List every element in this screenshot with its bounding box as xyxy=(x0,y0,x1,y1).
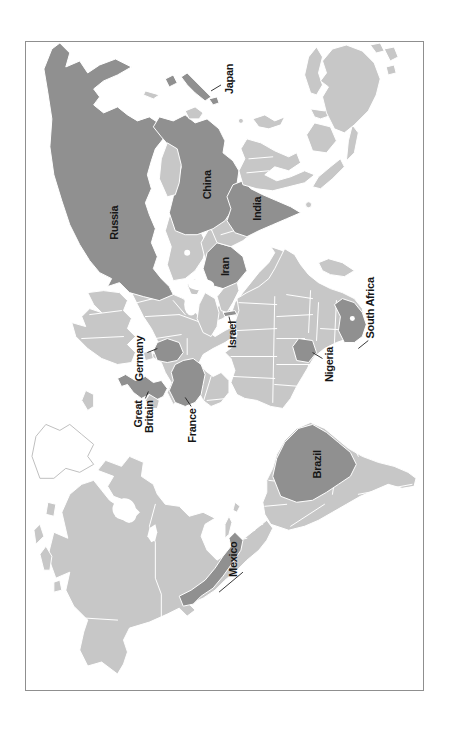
scandinavia xyxy=(72,291,136,365)
page: Russia China Japan India Iran Israel Ger… xyxy=(0,0,449,734)
map-rotator: Russia China Japan India Iran Israel Ger… xyxy=(26,42,423,690)
tasmania xyxy=(386,65,396,75)
korea xyxy=(185,107,203,119)
africa xyxy=(225,249,366,409)
label-russia: Russia xyxy=(108,204,120,239)
caspian-sea xyxy=(188,279,214,291)
new-zealand xyxy=(370,43,398,61)
leader-south-africa xyxy=(358,341,368,349)
label-japan: Japan xyxy=(223,63,235,94)
iceland xyxy=(82,390,94,410)
hispaniola xyxy=(233,502,240,512)
new-guinea xyxy=(305,47,323,95)
label-china: China xyxy=(201,169,213,199)
lesotho xyxy=(350,316,355,321)
label-france: France xyxy=(186,408,198,442)
philippines xyxy=(253,115,285,129)
country-russia xyxy=(44,43,173,301)
label-south-africa: South Africa xyxy=(364,276,376,338)
sakhalin xyxy=(143,91,159,99)
country-canada-usa-base xyxy=(48,456,273,674)
cuba xyxy=(225,516,232,538)
madagascar xyxy=(319,259,355,277)
country-france xyxy=(169,359,205,407)
aral-sea xyxy=(184,250,190,256)
label-mexico: Mexico xyxy=(227,541,239,577)
taiwan xyxy=(238,118,243,123)
leader-japan xyxy=(211,85,221,91)
label-israel: Israel xyxy=(226,321,238,348)
country-germany xyxy=(153,339,183,363)
label-nigeria: Nigeria xyxy=(323,346,335,382)
australia xyxy=(321,45,381,133)
label-india: India xyxy=(251,195,263,220)
country-japan xyxy=(165,73,219,105)
world-map: Russia China Japan India Iran Israel Ger… xyxy=(26,42,423,690)
map-frame: Russia China Japan India Iran Israel Ger… xyxy=(25,41,424,691)
sri-lanka xyxy=(306,202,312,208)
oceania xyxy=(321,43,399,133)
black-sea xyxy=(184,294,198,316)
country-greenland xyxy=(32,424,94,478)
borneo xyxy=(307,123,337,153)
southeast-asia xyxy=(239,139,315,191)
label-great-britain-line2: Britain xyxy=(143,400,155,433)
label-iran: Iran xyxy=(219,257,231,277)
label-brazil: Brazil xyxy=(311,450,323,478)
south-america xyxy=(263,422,416,530)
sumatra xyxy=(313,159,345,189)
label-germany: Germany xyxy=(133,335,145,382)
